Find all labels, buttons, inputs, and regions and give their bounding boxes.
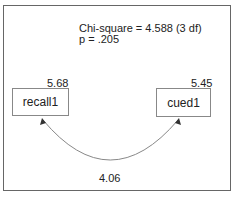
- covariance-arc: [0, 0, 236, 197]
- arrowhead-right-icon: [175, 118, 181, 125]
- covariance-label: 4.06: [99, 172, 120, 184]
- arrowhead-left-icon: [40, 118, 46, 125]
